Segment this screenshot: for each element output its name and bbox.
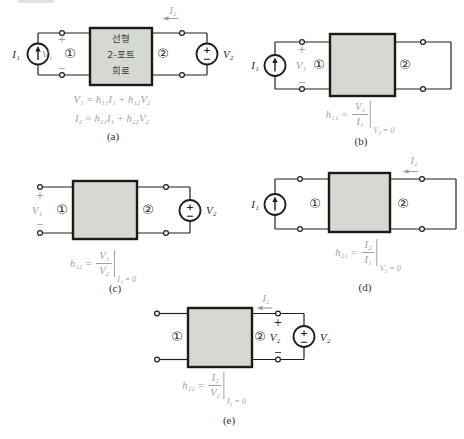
terminal-node xyxy=(276,311,281,316)
equation-lhs: h₂₂ = xyxy=(182,380,204,391)
figure-b: I₁ + − V₁ ① ② h₁₁ = V₁ I₁ V₂ = 0 (b) xyxy=(240,0,464,150)
v1-label: V₁ xyxy=(296,59,307,71)
source-minus: − xyxy=(203,53,211,64)
terminal-node xyxy=(155,357,160,362)
i1-label: I₁ xyxy=(250,59,259,71)
equation-fraction: I₂ I₁ xyxy=(362,239,375,265)
h11-equation: h₁₁ = V₁ I₁ V₂ = 0 xyxy=(326,101,394,128)
terminal-node xyxy=(420,227,425,232)
source-minus: − xyxy=(300,336,308,347)
port2-label: ② xyxy=(142,202,154,217)
terminal-node xyxy=(420,177,425,182)
equation-denominator: V₂ xyxy=(210,386,220,399)
equation-condition: V₂ = 0 xyxy=(380,264,401,273)
figure-e: ① ② + − V₂ + − V₂ I₂ h₂₂ = I₂ V₂ I₁ = 0 … xyxy=(100,280,364,439)
two-port-network-box xyxy=(73,181,137,239)
two-port-network-box xyxy=(330,34,395,96)
polarity-minus: − xyxy=(58,63,66,74)
evaluated-at-bar xyxy=(224,372,225,399)
port2-label: ② xyxy=(254,329,266,344)
evaluated-at-bar xyxy=(370,101,371,128)
equation-lhs: h₂₁ = xyxy=(335,247,357,258)
polarity-plus: + xyxy=(58,34,66,45)
equation-denominator: I₁ xyxy=(365,253,372,266)
h-parameter-equations: V₁ = h₁₁I₁ + h₁₂V₂ I₂ = h₂₁I₁ + h₂₂V₂ xyxy=(73,90,150,128)
h21-equation: h₂₁ = I₂ I₁ V₂ = 0 xyxy=(335,239,401,266)
polarity-plus: + xyxy=(274,317,282,328)
terminal-node xyxy=(298,227,303,232)
terminal-node xyxy=(155,311,160,316)
polarity-plus: + xyxy=(298,44,306,55)
i2-arrow-head xyxy=(403,169,409,174)
source-minus: − xyxy=(186,210,194,221)
two-port-network-box xyxy=(329,173,390,232)
equation-fraction: V₁ V₂ xyxy=(96,250,112,276)
polarity-minus: − xyxy=(36,219,44,230)
evaluated-at-bar xyxy=(114,250,115,277)
equation-fraction: I₂ V₂ xyxy=(209,372,222,398)
equation-numerator: I₂ xyxy=(209,372,222,386)
port1-label: ① xyxy=(313,57,325,72)
port1-label: ① xyxy=(64,46,76,61)
terminal-node xyxy=(164,231,169,236)
i2-label: I₂ xyxy=(169,5,177,16)
equation-numerator: V₁ xyxy=(352,101,368,115)
equation-condition: V₂ = 0 xyxy=(373,126,394,135)
caption-b: (b) xyxy=(355,135,368,147)
equation-numerator: V₁ xyxy=(96,250,112,264)
terminal-node xyxy=(38,185,43,190)
port1-label: ① xyxy=(171,329,183,344)
port2-label: ② xyxy=(397,196,409,211)
v1-label: V₁ xyxy=(42,48,53,60)
equation-numerator: I₂ xyxy=(362,239,375,253)
equation-fraction: V₁ I₁ xyxy=(352,101,368,127)
terminal-node xyxy=(421,40,426,45)
equation-denominator: I₁ xyxy=(357,115,364,128)
terminal-node xyxy=(421,87,426,92)
figure-c: + − V₁ ① ② + − V₂ h₁₂ = V₁ V₂ I₁ = 0 (c) xyxy=(0,150,232,295)
equation-v1: V₁ = h₁₁I₁ + h₁₂V₂ xyxy=(73,90,150,109)
v2-label: V₂ xyxy=(320,331,331,343)
terminal-node xyxy=(164,185,169,190)
i1-label: I₁ xyxy=(250,198,259,210)
terminal-node xyxy=(180,73,185,78)
equation-lhs: h₁₁ = xyxy=(326,109,348,120)
terminal-node xyxy=(38,231,43,236)
evaluated-at-bar xyxy=(377,239,378,266)
caption-e: (e) xyxy=(223,414,235,426)
i2-arrow-head xyxy=(163,16,169,21)
h12-equation: h₁₂ = V₁ V₂ I₁ = 0 xyxy=(70,250,136,277)
h-parameter-figure-panel: I₁ + − V₁ ① 선형 2-포트 회로 ② + − V₂ I₂ V₁ = … xyxy=(0,0,464,439)
figure-d: I₁ ① ② I₂ h₂₁ = I₂ I₁ V₂ = 0 (d) xyxy=(240,150,464,295)
box-text-line3: 회로 xyxy=(112,65,130,76)
polarity-minus: − xyxy=(274,347,282,358)
v2-port-label: V₂ xyxy=(270,331,281,343)
h22-equation: h₂₂ = I₂ V₂ I₁ = 0 xyxy=(182,372,245,399)
terminal-node xyxy=(298,177,303,182)
v1-label: V₁ xyxy=(32,204,43,216)
two-port-network-box xyxy=(188,308,252,367)
port1-label: ① xyxy=(309,196,321,211)
i2-label: I₂ xyxy=(410,155,418,166)
equation-condition: I₁ = 0 xyxy=(227,397,246,406)
port2-label: ② xyxy=(157,46,169,61)
v2-label: V₂ xyxy=(223,48,234,60)
v2-label: V₂ xyxy=(206,204,217,216)
polarity-plus: + xyxy=(36,190,44,201)
terminal-node xyxy=(180,31,185,36)
i1-label: I₁ xyxy=(11,48,20,60)
circuit-d: I₁ ① ② I₂ xyxy=(240,150,464,295)
figure-a: I₁ + − V₁ ① 선형 2-포트 회로 ② + − V₂ I₂ V₁ = … xyxy=(0,0,240,150)
port2-label: ② xyxy=(399,57,411,72)
box-text-line1: 선형 xyxy=(112,33,130,44)
equation-i2: I₂ = h₂₁I₁ + h₂₂V₂ xyxy=(73,109,150,128)
caption-a: (a) xyxy=(107,130,119,142)
polarity-minus: − xyxy=(298,77,306,88)
box-text-line2: 2-포트 xyxy=(107,49,134,60)
equation-lhs: h₁₂ = xyxy=(70,258,92,269)
i2-arrow-head xyxy=(257,306,263,311)
port1-label: ① xyxy=(56,202,68,217)
equation-denominator: V₂ xyxy=(99,264,109,277)
i2-label: I₂ xyxy=(262,293,270,304)
